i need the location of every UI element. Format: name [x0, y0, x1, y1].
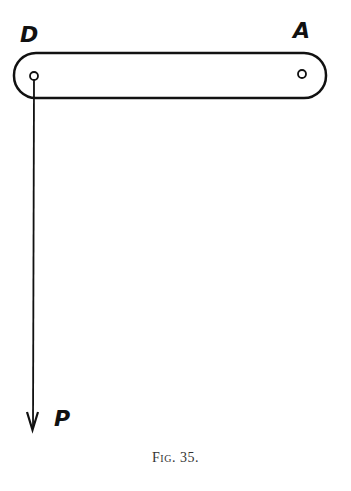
- label-d: D: [20, 24, 38, 46]
- figure-caption: Fig. 35.: [0, 450, 351, 466]
- pin-hole-d: [30, 72, 38, 80]
- label-p: P: [54, 408, 70, 430]
- diagram-canvas: [0, 0, 351, 491]
- force-line: [33, 80, 34, 429]
- bar-link: [14, 53, 326, 98]
- pin-hole-a: [298, 70, 306, 78]
- label-a: A: [293, 20, 310, 42]
